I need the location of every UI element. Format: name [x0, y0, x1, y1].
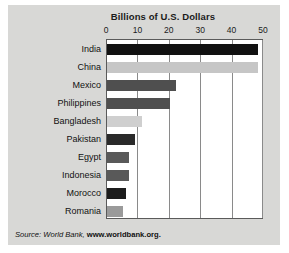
- bar-romania: [107, 206, 123, 217]
- x-axis-tick-labels: 01020304050: [105, 25, 261, 37]
- category-label-bangladesh: Bangladesh: [11, 116, 101, 126]
- x-tick-label-10: 10: [126, 25, 148, 35]
- source-tail: .: [159, 230, 161, 239]
- category-label-philippines: Philippines: [11, 98, 101, 108]
- category-label-morocco: Morocco: [11, 188, 101, 198]
- category-label-pakistan: Pakistan: [11, 134, 101, 144]
- plot-area: [106, 39, 263, 219]
- category-label-mexico: Mexico: [11, 80, 101, 90]
- bar-morocco: [107, 188, 126, 199]
- bar-bangladesh: [107, 116, 142, 127]
- source-url[interactable]: www.worldbank.org: [87, 230, 159, 239]
- chart-figure: Billions of U.S. Dollars 01020304050 Ind…: [8, 5, 280, 245]
- x-tick-label-0: 0: [95, 25, 117, 35]
- chart-title: Billions of U.S. Dollars: [8, 11, 280, 22]
- x-tick-label-20: 20: [158, 25, 180, 35]
- bar-mexico: [107, 80, 176, 91]
- category-axis-labels: IndiaChinaMexicoPhilippinesBangladeshPak…: [12, 39, 104, 219]
- category-label-china: China: [11, 62, 101, 72]
- x-tick-label-30: 30: [189, 25, 211, 35]
- source-prefix: Source: World Bank,: [15, 230, 87, 239]
- category-label-india: India: [11, 44, 101, 54]
- x-tick-label-50: 50: [252, 25, 274, 35]
- bar-indonesia: [107, 170, 129, 181]
- bar-india: [107, 44, 258, 55]
- source-note: Source: World Bank, www.worldbank.org.: [15, 230, 161, 239]
- bar-china: [107, 62, 258, 73]
- category-label-egypt: Egypt: [11, 152, 101, 162]
- bar-pakistan: [107, 134, 135, 145]
- category-label-indonesia: Indonesia: [11, 170, 101, 180]
- bar-egypt: [107, 152, 129, 163]
- gridline-50: [262, 40, 263, 218]
- category-label-romania: Romania: [11, 206, 101, 216]
- x-tick-label-40: 40: [221, 25, 243, 35]
- bar-philippines: [107, 98, 170, 109]
